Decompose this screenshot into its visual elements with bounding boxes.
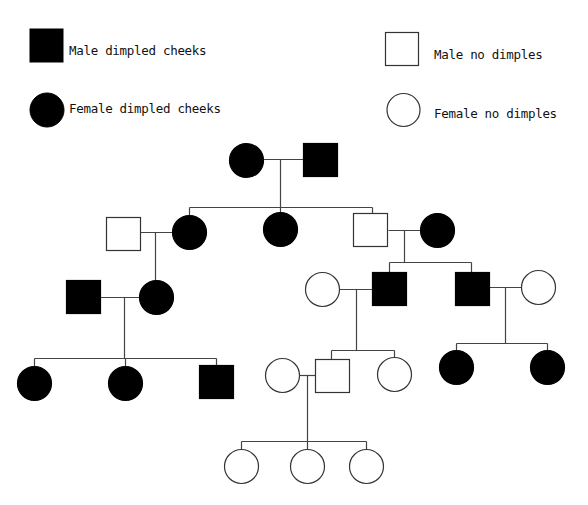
female-dimpled-circle-icon-II-5 (421, 214, 455, 248)
legend-female-affected-icon (30, 93, 64, 127)
female-no-dimples-circle-icon-IV-4 (266, 359, 300, 393)
female-dimpled-circle-icon-IV-1 (18, 367, 52, 401)
female-no-dimples-circle-icon-V-2 (291, 450, 325, 484)
legend-label-male-affected: Male dimpled cheeks (69, 43, 206, 58)
female-no-dimples-circle-icon-III-3 (306, 273, 340, 307)
female-no-dimples-circle-icon-V-3 (350, 450, 384, 484)
legend-male-unaffected-icon (386, 33, 419, 66)
legend-label-female-unaffected: Female no dimples (434, 106, 557, 121)
female-dimpled-circle-icon-IV-8 (531, 351, 565, 385)
pedigree-individuals (18, 144, 565, 484)
legend-label-male-unaffected: Male no dimples (434, 47, 542, 62)
male-no-dimples-square-icon-II-4 (354, 214, 388, 247)
male-no-dimples-square-icon-IV-5 (316, 360, 350, 393)
male-dimpled-square-icon-III-1 (67, 281, 101, 314)
female-no-dimples-circle-icon-III-6 (522, 271, 556, 305)
female-dimpled-circle-icon-III-2 (140, 281, 174, 315)
female-dimpled-circle-icon-IV-2 (109, 367, 143, 401)
female-dimpled-circle-icon-II-2 (173, 216, 207, 250)
male-dimpled-square-icon-III-4 (373, 273, 407, 306)
pedigree-canvas (0, 0, 588, 505)
male-dimpled-square-icon-III-5 (456, 273, 490, 306)
male-dimpled-square-icon-I-2 (304, 144, 338, 177)
female-dimpled-circle-icon-I-1 (230, 144, 264, 178)
female-no-dimples-circle-icon-V-1 (225, 450, 259, 484)
female-dimpled-circle-icon-II-3 (264, 213, 298, 247)
female-dimpled-circle-icon-IV-7 (440, 351, 474, 385)
legend-female-unaffected-icon (387, 94, 420, 127)
male-dimpled-square-icon-IV-3 (200, 366, 234, 399)
female-no-dimples-circle-icon-IV-6 (378, 358, 412, 392)
legend-label-female-affected: Female dimpled cheeks (69, 101, 221, 116)
legend-male-affected-icon (30, 29, 63, 62)
male-no-dimples-square-icon-II-1 (107, 218, 141, 251)
